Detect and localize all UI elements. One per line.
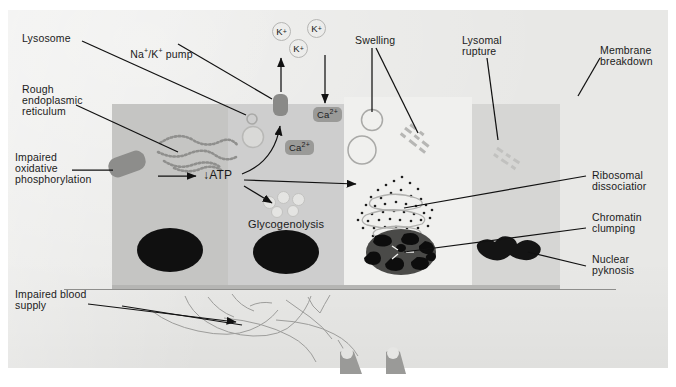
arrow-impaired-blood-supply-b	[122, 306, 242, 325]
label-na-k-pump-na: Na	[130, 47, 144, 59]
arrow-atp-to-swollen-cell	[244, 180, 356, 184]
label-glycogenolysis: Glycogenolysis	[248, 219, 324, 231]
ion-calcium: Ca2+	[285, 140, 314, 155]
label-na-k-pump: Na+/K+ pump	[118, 33, 193, 71]
arrow-impaired-blood-supply-a	[88, 304, 236, 322]
label-rough-er-line3: reticulum	[22, 106, 66, 118]
label-nuclear-pyknosis-line2: pyknosis	[592, 265, 634, 277]
label-impaired-ox-phos-line3: phosphorylation	[15, 174, 91, 186]
label-swelling: Swelling	[355, 35, 395, 47]
figure-canvas: Lysosome Na+/K+ pump Rough endoplasmic r…	[0, 0, 676, 387]
leader-rough-er	[76, 105, 178, 152]
atp-text: ATP	[209, 168, 232, 182]
label-k-sup: +	[159, 47, 163, 54]
ion-calcium: Ca2+	[313, 107, 342, 122]
ion-potassium: K+	[307, 19, 326, 38]
label-membrane-breakdown-line2: breakdown	[600, 56, 653, 68]
leader-chromatin-clumping	[404, 228, 586, 252]
leader-swelling-b	[376, 48, 418, 133]
leader-lysosomal-rupture	[487, 58, 498, 140]
label-lysosome: Lysosome	[22, 33, 71, 45]
annotation-layer	[0, 0, 676, 387]
label-na-k-pump-word: pump	[166, 47, 193, 59]
label-chromatin-clumping-line2: clumping	[592, 223, 635, 235]
label-impaired-blood-supply-line2: supply	[15, 300, 46, 312]
label-lysosomal-rupture-line2: rupture	[462, 46, 496, 58]
ion-potassium: K+	[272, 22, 291, 41]
leader-nuclear-pyknosis	[528, 252, 586, 266]
label-ribosomal-dissociation-line2: dissociatior	[592, 181, 646, 193]
leader-membrane-breakdown	[578, 58, 600, 96]
ion-potassium: K+	[289, 39, 308, 58]
arrow-atp-to-pump	[242, 126, 280, 174]
arrow-atp-to-glycogenolysis	[244, 186, 272, 203]
label-na-k-pump-k: /K	[148, 47, 158, 59]
label-atp: ↓ATP	[203, 170, 232, 182]
leader-ribosomal-dissociation	[404, 176, 586, 208]
